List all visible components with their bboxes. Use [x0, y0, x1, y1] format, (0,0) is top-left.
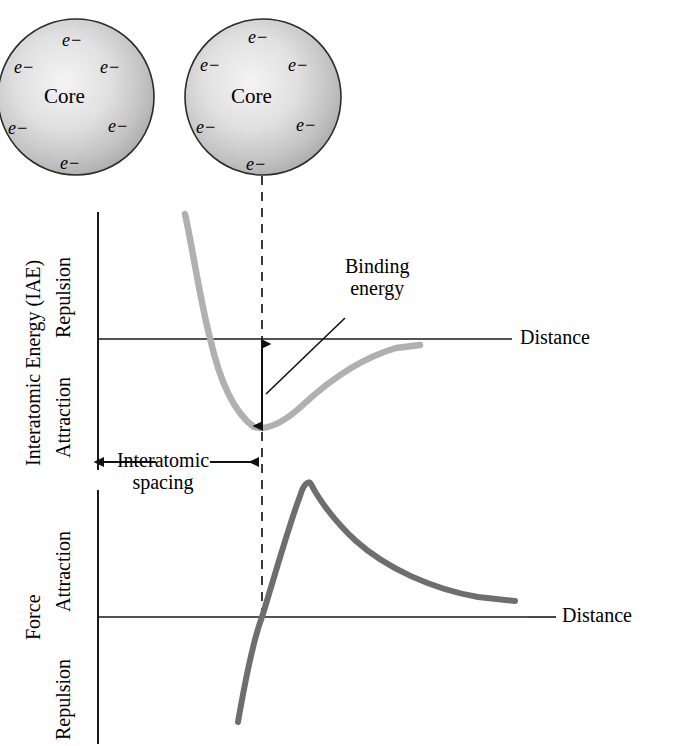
right-atom-electron-5: e−	[296, 115, 316, 136]
binding-energy-line-2: energy	[345, 278, 409, 300]
left-atom-electron-4: e−	[8, 118, 28, 139]
interatomic-spacing-annotation: Interatomic spacing	[113, 450, 213, 493]
interatomic-spacing-line-2: spacing	[113, 472, 213, 494]
left-atom-electron-1: e−	[62, 30, 82, 51]
lower-plot-repulsion-label: Repulsion	[52, 659, 75, 740]
right-atom-electron-4: e−	[196, 117, 216, 138]
right-atom-electron-1: e−	[248, 27, 268, 48]
lower-plot-distance-label: Distance	[562, 604, 632, 627]
lower-plot-y-axis-title: Force	[22, 594, 45, 640]
figure-canvas	[0, 0, 677, 746]
right-atom-electron-2: e−	[200, 55, 220, 76]
left-atom-electron-2: e−	[14, 57, 34, 78]
left-atom-core-label: Core	[44, 84, 85, 109]
binding-energy-line-1: Binding	[345, 256, 409, 278]
upper-plot-repulsion-label: Repulsion	[52, 257, 75, 338]
interatomic-energy-curve	[185, 214, 420, 428]
left-atom-electron-6: e−	[60, 153, 80, 174]
interatomic-force-curve	[238, 482, 515, 722]
right-atom-electron-3: e−	[288, 55, 308, 76]
right-atom-core-label: Core	[231, 84, 272, 109]
right-atom-electron-6: e−	[246, 154, 266, 175]
left-atom-electron-5: e−	[108, 116, 128, 137]
upper-plot-y-axis-title: Interatomic Energy (IAE)	[22, 260, 45, 466]
interatomic-spacing-line-1: Interatomic	[113, 450, 213, 472]
upper-plot-distance-label: Distance	[520, 326, 590, 349]
lower-plot-attraction-label: Attraction	[52, 531, 75, 612]
left-atom-electron-3: e−	[100, 57, 120, 78]
upper-plot-attraction-label: Attraction	[52, 377, 75, 458]
binding-energy-annotation: Binding energy	[345, 256, 409, 299]
interatomic-energy-force-figure: Core e− e− e− e− e− e− Core e− e− e− e− …	[0, 0, 677, 746]
